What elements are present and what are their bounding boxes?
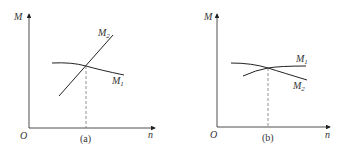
panel-b: M n O M1 M2 (b) [203,11,330,144]
origin-label: O [20,130,27,141]
curve-m1 [243,66,306,76]
curve-m1 [52,63,124,75]
panel-caption: (a) [80,133,91,145]
curve-m2-label: M2 [97,27,110,40]
curve-m1-label: M1 [295,53,308,66]
x-axis-label: n [325,129,330,140]
y-axis-label: M [13,11,23,22]
diagram-canvas: M n O M2 M1 (a) M n O M1 M2 (b) [0,0,344,152]
origin-label: O [210,129,217,140]
curve-m2-label: M2 [292,80,305,93]
panel-caption: (b) [262,132,274,144]
panel-a: M n O M2 M1 (a) [13,11,155,145]
curve-m2 [231,63,307,80]
x-axis-label: n [148,129,153,140]
y-axis-label: M [203,11,213,22]
curve-m1-label: M1 [111,75,124,88]
